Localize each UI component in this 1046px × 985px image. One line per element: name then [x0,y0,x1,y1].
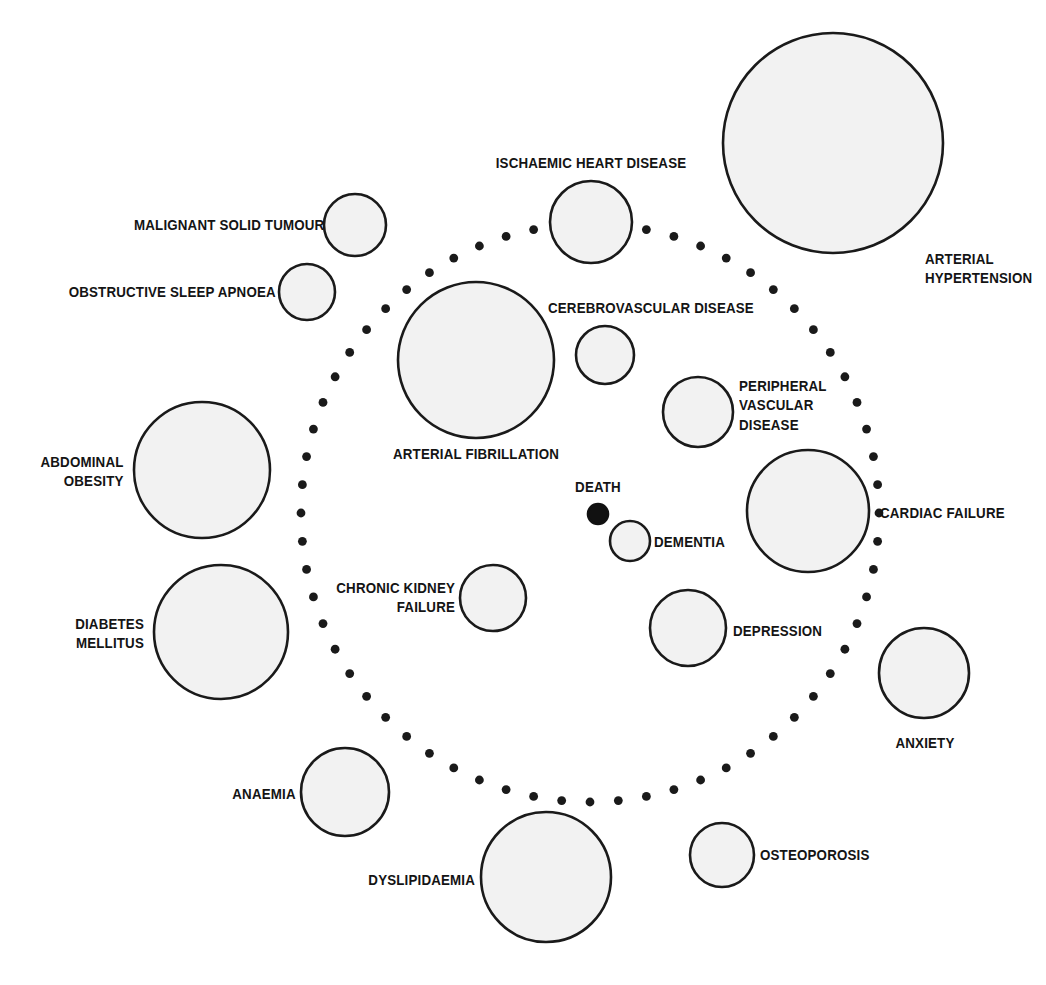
ring-dot [746,268,755,277]
bubble-osteoporosis[interactable] [690,823,754,887]
ring-dot [869,452,878,461]
ring-dot [381,713,390,722]
bubble-obstructive-sleep-apnoea[interactable] [279,264,335,320]
ring-dot [309,425,318,434]
bubble-group [134,33,969,942]
ring-dot [502,785,511,794]
ring-dot [302,452,311,461]
ring-dot [529,792,538,801]
diagram-canvas: MALIGNANT SOLID TUMOUROBSTRUCTIVE SLEEP … [0,0,1046,985]
ring-dot [696,242,705,251]
ring-dot [840,372,849,381]
bubble-dementia[interactable] [610,521,650,561]
ring-dot [669,785,678,794]
ring-dot [642,225,651,234]
ring-dot [875,509,884,518]
ring-dot [319,619,328,628]
ring-dot [345,348,354,357]
ring-dot [853,398,862,407]
bubble-abdominal-obesity[interactable] [134,402,270,538]
ring-dot [769,285,778,294]
ring-dot [840,645,849,654]
ring-dot [298,480,307,489]
bubble-dyslipidaemia[interactable] [481,812,611,942]
ring-dot [475,776,484,785]
ring-dot [345,669,354,678]
ring-dot [425,268,434,277]
ring-dot [826,669,835,678]
bubble-cerebrovascular-disease[interactable] [576,326,634,384]
ring-dot [298,537,307,546]
ring-dot [869,565,878,574]
ring-dot [862,425,871,434]
bubble-diabetes-mellitus[interactable] [154,565,288,699]
ring-dot [402,285,411,294]
ring-dot [790,713,799,722]
bubble-cardiac-failure[interactable] [747,450,869,572]
ring-dot [642,792,651,801]
ring-dot [425,749,434,758]
ring-dot [769,732,778,741]
ring-dot [873,537,882,546]
bubble-peripheral-vascular-disease[interactable] [663,377,733,447]
ring-dot [669,232,678,241]
ring-dot [402,732,411,741]
ring-dot [746,749,755,758]
ring-dot [809,692,818,701]
ring-dot [722,254,731,263]
bubble-arterial-fibrillation[interactable] [398,282,554,438]
ring-dot [449,763,458,772]
bubble-anaemia[interactable] [301,748,389,836]
ring-dot [331,372,340,381]
ring-dot [309,592,318,601]
bubble-depression[interactable] [650,590,726,666]
bubble-ischaemic-heart-disease[interactable] [550,181,632,263]
ring-dot [873,480,882,489]
ring-dot [449,254,458,263]
ring-dot [862,592,871,601]
ring-dot [331,645,340,654]
ring-dot [502,232,511,241]
bubble-chronic-kidney-failure[interactable] [460,565,526,631]
ring-dot [381,304,390,313]
bubble-anxiety[interactable] [879,628,969,718]
bubble-death[interactable] [588,504,608,524]
ring-dot [297,509,306,518]
bubble-arterial-hypertension[interactable] [723,33,943,253]
ring-dot [722,763,731,772]
ring-dot [529,225,538,234]
ring-dot [557,796,566,805]
ring-dot [362,325,371,334]
ring-dot [790,304,799,313]
ring-dot [302,565,311,574]
ring-dot [362,692,371,701]
ring-dot [319,398,328,407]
ring-dot [586,798,595,807]
ring-dot [475,242,484,251]
bubble-malignant-solid-tumour[interactable] [324,194,386,256]
ring-dot [696,776,705,785]
bubble-diagram-svg [0,0,1046,985]
ring-dot [614,796,623,805]
ring-dot [809,325,818,334]
ring-dot [853,619,862,628]
ring-dot [826,348,835,357]
